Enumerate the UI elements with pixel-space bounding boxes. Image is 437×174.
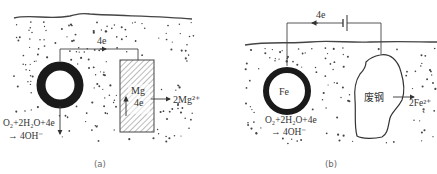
wire-b-left: [287, 23, 343, 66]
caption-b: (b): [325, 159, 337, 169]
scrap-steel-label: 废钢: [364, 91, 384, 103]
cathode-reaction-a-line1: O₂+2H₂O+4e: [3, 118, 55, 128]
battery-icon: [343, 15, 347, 31]
fe-label: Fe: [279, 86, 290, 97]
corrosion-protection-diagram: 4e Mg 4e 2Mg²⁺ O₂+2H₂O+4e → 4OH⁻ (a) 4e …: [0, 0, 437, 174]
mg-label: Mg: [131, 85, 145, 96]
cathode-reaction-a-line2: → 4OH⁻: [8, 131, 43, 141]
ground-surface-a: [14, 14, 192, 19]
ground-surface-b: [245, 41, 437, 45]
cathode-reaction-b-line1: O₂+2H₂O+4e: [265, 115, 317, 125]
wire-b-right: [347, 23, 381, 54]
mg-electron-label: 4e: [134, 97, 144, 108]
electron-label-b: 4e: [316, 9, 326, 20]
electron-label-a: 4e: [97, 35, 107, 46]
pipe-ring-a: [41, 66, 79, 104]
caption-a: (a): [94, 159, 106, 169]
panel-b: 4e Fe 废钢 2Fe²⁺ O₂+2H₂O+4e → 4OH⁻ (b): [245, 9, 437, 169]
panel-a: 4e Mg 4e 2Mg²⁺ O₂+2H₂O+4e → 4OH⁻ (a): [3, 14, 200, 169]
cathode-reaction-b-line2: → 4OH⁻: [271, 127, 306, 137]
fe-ion-label: 2Fe²⁺: [409, 98, 431, 108]
mg-ion-label: 2Mg²⁺: [173, 94, 200, 105]
